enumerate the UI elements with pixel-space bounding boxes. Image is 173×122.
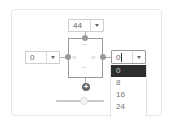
option-0[interactable]: 0 (111, 65, 146, 77)
chevron-down-icon[interactable] (91, 24, 103, 27)
text-cursor (121, 53, 122, 62)
chevron-down-icon[interactable] (133, 56, 145, 59)
chevron-down-icon[interactable] (47, 56, 59, 59)
right-handle[interactable] (100, 54, 106, 60)
chevron-double-right-icon: ›› (72, 54, 77, 61)
plus-icon: + (84, 83, 89, 91)
left-margin-value: 0 (26, 52, 46, 63)
chevron-double-down-icon: ˇˇ (82, 43, 87, 50)
top-handle[interactable] (82, 35, 88, 41)
chevron-double-up-icon: ˆˆ (82, 66, 87, 73)
chevron-double-left-icon: ‹‹ (91, 54, 96, 61)
option-8[interactable]: 8 (111, 77, 146, 89)
option-24[interactable]: 24 (111, 101, 146, 113)
right-margin-input[interactable]: 0 (112, 52, 132, 63)
add-bottom-icon[interactable]: + (82, 83, 90, 91)
right-margin-options-list: 0 8 16 24 (110, 65, 147, 117)
slider-handle[interactable] (80, 97, 88, 105)
top-margin-select[interactable]: 44 (68, 19, 104, 32)
left-handle[interactable] (65, 54, 71, 60)
option-16[interactable]: 16 (111, 89, 146, 101)
left-margin-select[interactable]: 0 (25, 51, 60, 64)
right-margin-select[interactable]: 0 (111, 50, 146, 64)
right-margin-value: 0 (116, 53, 120, 62)
top-margin-value: 44 (69, 20, 90, 31)
